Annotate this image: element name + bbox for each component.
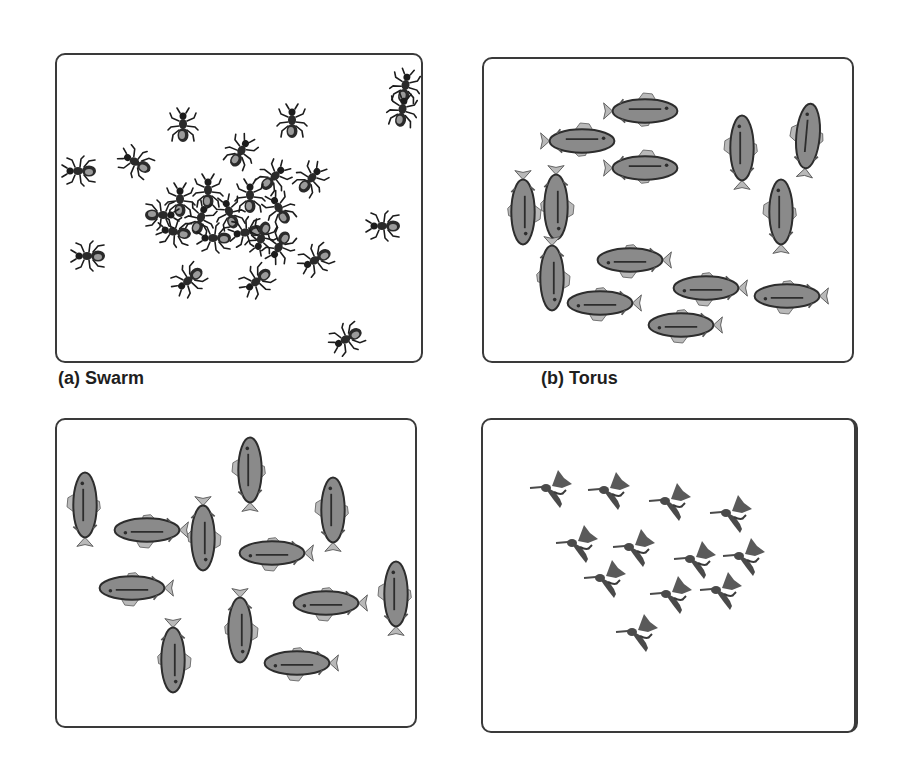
figure-illustrations — [0, 0, 905, 775]
bird-flock — [530, 470, 765, 652]
fish-torus — [508, 93, 829, 343]
fish-parallel-group — [67, 438, 411, 693]
ant-swarm — [62, 67, 423, 361]
